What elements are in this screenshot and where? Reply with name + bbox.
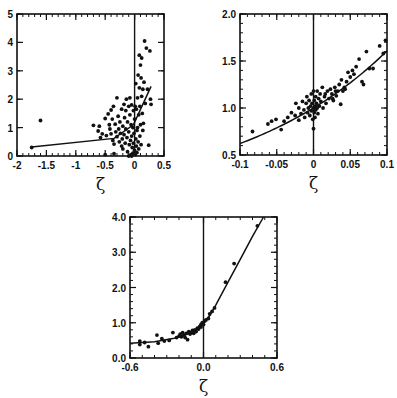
fit-curve [32,86,151,146]
data-point [312,89,316,93]
y-tick-label: 0.0 [112,353,126,364]
x-tick-label: 0.1 [380,159,394,170]
data-point [136,73,140,77]
data-point [92,123,96,127]
data-point [345,80,349,84]
data-point [307,99,311,103]
data-point [107,123,111,127]
y-tick-label: 0.5 [222,150,236,161]
data-point [155,333,159,337]
data-point [318,92,322,96]
x-tick-label: -0.05 [265,159,288,170]
x-tick-label: 0.05 [341,159,361,170]
x-tick-label: 0.6 [270,362,284,373]
figure: -2-1.5-1-0.500.5012345ζ -0.1-0.0500.050.… [0,0,397,398]
data-point [329,87,333,91]
data-point [114,130,118,134]
data-point [334,89,338,93]
data-point [140,112,144,116]
data-point [117,127,121,131]
data-point [297,118,301,122]
data-point [162,339,166,343]
data-point [111,138,115,142]
data-point [115,135,119,139]
y-tick-label: 2.0 [112,283,126,294]
x-tick-label: 0 [132,160,138,171]
data-point [270,119,274,123]
data-point [131,126,135,130]
data-point [115,96,119,100]
data-point [352,72,356,76]
data-point [348,75,352,79]
data-point [251,130,255,134]
data-point [132,131,136,135]
data-point [126,150,130,154]
data-point [137,86,141,90]
data-point [109,132,113,136]
data-point [106,112,110,116]
data-point [133,117,137,121]
data-point [127,143,131,147]
x-tick-label: 0.5 [157,160,171,171]
data-point [130,103,134,107]
data-point [305,95,309,99]
panel-top-left: -2-1.5-1-0.500.5012345ζ [7,9,171,194]
data-point [127,130,131,134]
y-tick-label: 1.0 [222,103,236,114]
data-point [140,94,144,98]
data-point [118,120,122,124]
y-tick-label: 1 [7,123,13,134]
data-point [144,46,148,50]
data-point [121,124,125,128]
data-point [127,154,131,158]
data-point [132,141,136,145]
data-point [171,331,175,335]
data-point [320,85,324,89]
data-point [140,56,144,60]
data-point [122,133,126,137]
data-point [362,83,366,87]
data-point [120,137,124,141]
data-point [149,97,153,101]
data-point [137,113,141,117]
y-tick-label: 5 [7,9,13,20]
data-point [123,141,127,145]
data-point [293,114,297,118]
data-point [294,101,298,105]
data-point [319,100,323,104]
data-point [354,65,358,69]
data-point [126,120,130,124]
data-point [256,224,260,228]
data-point [138,134,142,138]
data-point [99,136,103,140]
y-tick-label: 4.0 [112,212,126,223]
panel-bottom-center: -0.60.00.60.01.02.03.04.0ζ [112,212,284,396]
data-point [301,100,305,104]
data-point [315,89,319,93]
data-point [120,107,124,111]
data-point [308,114,312,118]
data-point [142,121,146,125]
data-point [339,102,343,106]
data-point [137,147,141,151]
data-point [100,132,104,136]
data-point [148,49,152,53]
data-point [302,108,306,112]
data-point [313,116,317,120]
data-point [143,102,147,106]
data-point [136,126,140,130]
data-point [125,136,129,140]
data-point [282,119,286,123]
data-point [39,119,43,123]
data-point [330,92,334,96]
data-point [116,114,120,118]
data-point [337,83,341,87]
data-point [138,104,142,108]
data-point [286,116,290,120]
data-point [30,146,34,150]
data-point [129,138,133,142]
data-point [139,76,143,80]
data-point [149,102,153,106]
data-point [146,345,150,349]
data-point [122,102,126,106]
